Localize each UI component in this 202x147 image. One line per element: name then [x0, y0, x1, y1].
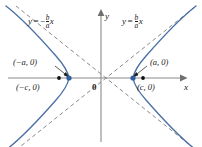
focus-left-label: (−c, 0): [16, 83, 40, 92]
asymptote-left-numerator: b: [46, 14, 50, 22]
asymptote-left-sign: −: [40, 16, 45, 26]
asymptote-label-right: y=bax: [122, 14, 143, 30]
asymptote-right-equals: =: [128, 16, 133, 26]
asymptote-label-left: y=−bax: [28, 14, 54, 30]
vertex-right-dot: [130, 75, 135, 80]
asymptote-right-lhs: y: [122, 16, 126, 26]
asymptote-left-lhs: y: [28, 16, 32, 26]
asymptote-right-fraction: ba: [135, 14, 139, 30]
asymptote-left-variable: x: [50, 16, 54, 26]
hyperbola-figure: y=−bax y=bax (−a, 0) (−c, 0) (a, 0) (c, …: [0, 0, 202, 147]
asymptote-left-denominator: a: [46, 21, 50, 30]
y-axis-arrowhead: [98, 9, 105, 16]
vertex-left-dot: [66, 75, 71, 80]
y-axis-label: y: [105, 12, 109, 21]
asymptote-left-equals: =: [34, 16, 39, 26]
x-axis-arrowhead: [180, 75, 188, 82]
focus-right-dot: [141, 76, 145, 80]
vertex-left-label: (−a, 0): [13, 58, 37, 67]
vertex-right-label: (a, 0): [150, 58, 168, 67]
focus-right-label: (c, 0): [137, 83, 155, 92]
focus-left-dot: [57, 76, 61, 80]
x-axis-label: x: [184, 83, 188, 92]
asymptote-right-numerator: b: [135, 14, 139, 22]
asymptote-right-variable: x: [139, 16, 143, 26]
asymptote-left-fraction: ba: [46, 14, 50, 30]
origin-label: 0: [92, 83, 97, 92]
asymptote-right-denominator: a: [135, 21, 139, 30]
